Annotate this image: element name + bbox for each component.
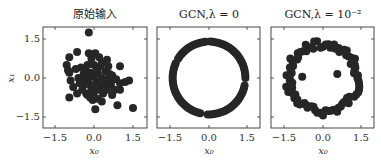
data-point xyxy=(129,104,137,112)
data-point xyxy=(104,62,112,70)
panel-original-input: 原始输入 1.5 0.0 −1.5 −1.5 0.0 1.5 x₀ x₁ xyxy=(5,7,147,156)
data-point xyxy=(77,75,85,83)
x-tick-label: 0.0 xyxy=(86,132,102,143)
data-point xyxy=(73,90,81,98)
data-point xyxy=(73,48,81,56)
data-point xyxy=(89,82,97,90)
y-tick-label: −1.5 xyxy=(16,111,40,122)
data-point xyxy=(116,62,124,70)
y-tick-label: 0.0 xyxy=(24,72,40,83)
data-point xyxy=(241,82,249,90)
y-tick-label: 1.5 xyxy=(24,33,40,44)
data-point xyxy=(85,29,93,37)
data-point xyxy=(91,105,99,113)
data-point xyxy=(298,73,306,81)
data-point xyxy=(72,65,80,73)
x-tick-label: 1.5 xyxy=(353,132,369,143)
data-point xyxy=(81,65,89,73)
scatter-points xyxy=(63,29,137,114)
data-point xyxy=(116,86,124,94)
x-tick-label: 0.0 xyxy=(315,132,331,143)
scatter-points xyxy=(169,38,250,119)
data-point xyxy=(113,101,121,109)
panel-title: GCN,λ = 10⁻² xyxy=(284,8,361,21)
y-axis-label: x₁ xyxy=(5,73,16,83)
data-point xyxy=(102,77,110,85)
x-axis-label: x₀ xyxy=(318,145,328,156)
data-point xyxy=(355,77,363,85)
x-tick-label: 0.0 xyxy=(201,132,217,143)
data-point xyxy=(65,53,73,61)
data-point xyxy=(86,73,94,81)
panel-title: 原始输入 xyxy=(73,7,117,21)
data-point xyxy=(333,70,341,78)
figure: 原始输入 1.5 0.0 −1.5 −1.5 0.0 1.5 x₀ x₁ GCN… xyxy=(0,0,381,166)
x-tick-label: −1.5 xyxy=(158,132,182,143)
data-point xyxy=(89,96,97,104)
scatter-points xyxy=(282,37,363,119)
x-axis-label: x₀ xyxy=(204,145,214,156)
data-point xyxy=(125,77,133,85)
x-tick-label: −1.5 xyxy=(272,132,296,143)
x-tick-label: 1.5 xyxy=(125,132,141,143)
data-point xyxy=(196,109,204,117)
x-tick-label: −1.5 xyxy=(43,132,67,143)
panel-gcn-lambda-0: GCN,λ = 0 −1.5 0.0 1.5 x₀ xyxy=(157,8,260,156)
data-point xyxy=(65,94,73,102)
x-tick-label: 1.5 xyxy=(239,132,255,143)
x-axis-label: x₀ xyxy=(89,145,99,156)
panel-gcn-lambda-1e-2: GCN,λ = 10⁻² −1.5 0.0 1.5 x₀ xyxy=(271,8,374,156)
data-point xyxy=(93,66,101,74)
data-point xyxy=(108,91,116,99)
panel-title: GCN,λ = 0 xyxy=(179,8,239,21)
data-point xyxy=(98,97,106,105)
